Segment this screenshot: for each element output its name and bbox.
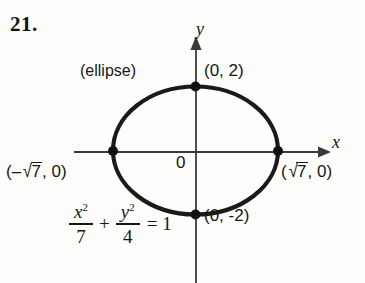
fraction-denominator-7: 7 <box>72 225 90 246</box>
exponent-y: 2 <box>129 201 135 213</box>
fraction-numerator-y: y2 <box>117 202 139 223</box>
fraction-numerator-x: x2 <box>70 202 92 223</box>
equation-right-side: = 1 <box>147 213 172 235</box>
variable-y: y <box>121 201 129 222</box>
vertex-label-left: (–√7, 0) <box>6 161 67 180</box>
exponent-x: 2 <box>82 201 88 213</box>
sqrt-group-right: √7 <box>287 161 308 180</box>
vertex-marker-top <box>191 82 201 92</box>
vertex-marker-left <box>108 146 118 156</box>
origin-label: 0 <box>176 154 185 171</box>
radicand-left: 7 <box>31 162 42 180</box>
radicand-right: 7 <box>296 162 307 180</box>
vertex-label-right: (√7, 0) <box>281 161 332 180</box>
vertex-label-bottom: (0, -2) <box>204 207 249 224</box>
fraction-denominator-4: 4 <box>119 225 137 246</box>
vertex-label-left-open: (– <box>6 162 21 181</box>
vertex-marker-bottom <box>191 210 201 220</box>
x-axis-label: x <box>332 133 340 151</box>
vertex-label-top: (0, 2) <box>204 62 244 79</box>
curve-type-annotation: (ellipse) <box>80 63 136 79</box>
fraction-y-squared-over-4: y2 4 <box>116 202 140 246</box>
x-axis-arrowhead <box>318 147 331 158</box>
ellipse-diagram <box>0 0 365 283</box>
y-axis-label: y <box>196 20 204 38</box>
figure-canvas: 21. y x (ellipse) 0 (0, 2) (0, -2) (√7, … <box>0 0 365 283</box>
sqrt-group-left: √7 <box>21 161 42 180</box>
fraction-x-squared-over-7: x2 7 <box>69 202 93 246</box>
vertex-label-left-close: , 0) <box>42 162 67 181</box>
ellipse-equation: x2 7 + y2 4 = 1 <box>66 202 172 246</box>
plus-operator: + <box>99 213 110 235</box>
vertex-label-right-close: , 0) <box>308 162 333 181</box>
vertex-marker-right <box>273 146 283 156</box>
